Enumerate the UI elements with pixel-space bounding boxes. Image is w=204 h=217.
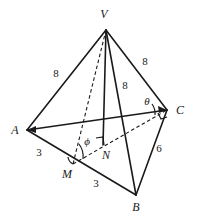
- vertex-label-C: C: [176, 104, 184, 116]
- angle-theta-arc-icon: [152, 104, 155, 115]
- edge-VB: [106, 30, 136, 195]
- vertex-label-A: A: [11, 124, 18, 136]
- vertex-label-N: N: [102, 149, 110, 161]
- length-label-AM: 3: [36, 147, 42, 158]
- length-label-MB: 3: [93, 178, 99, 189]
- edge-AB: [27, 130, 136, 195]
- angle-label-theta: θ: [144, 96, 149, 107]
- angle-phi-arc-icon: [79, 144, 83, 159]
- length-label-VC: 8: [142, 56, 148, 67]
- geometry-figure: V A B C M N 8 8 8 3 3 6 θ ϕ: [0, 0, 204, 217]
- tetrahedron-diagram: [0, 0, 204, 217]
- vertex-label-B: B: [132, 201, 139, 213]
- length-label-VA: 8: [53, 68, 59, 79]
- length-label-VB: 8: [122, 80, 128, 91]
- angle-label-phi: ϕ: [84, 136, 90, 147]
- edge-VN: [103, 30, 106, 145]
- vertex-label-M: M: [62, 168, 72, 180]
- vertex-label-V: V: [100, 8, 107, 20]
- length-label-BC: 6: [156, 143, 162, 154]
- edge-BC: [136, 110, 167, 195]
- edge-AC: [27, 110, 167, 130]
- edge-VC: [106, 30, 167, 110]
- angle-phi-arc-outer-icon: [68, 157, 73, 164]
